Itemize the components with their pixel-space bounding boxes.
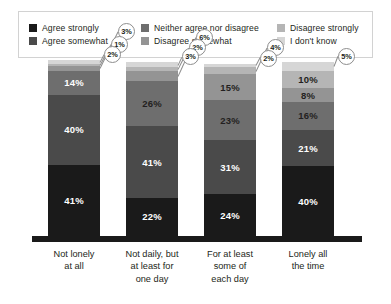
segment-value-label: 40%	[64, 124, 84, 135]
segment-value-label: 14%	[64, 77, 84, 88]
stacked-bar-not-daily-but-at-least-one-day[interactable]: 22%41%26%	[126, 62, 178, 236]
x-axis-label-not-lonely-at-all: Not lonelyat all	[35, 248, 113, 273]
plot-area: 41%40%14% 22%41%26% 24%31%23%15% 40%21%1…	[32, 62, 362, 242]
stacked-bar-for-at-least-some-of-each-day[interactable]: 24%31%23%15%	[204, 64, 256, 236]
legend-swatch-disagree-strongly	[277, 24, 285, 32]
x-axis-label-not-daily-but-at-least-one-day: Not daily, butat least forone day	[113, 248, 191, 285]
bar-segment-disagree-strongly[interactable]	[48, 64, 100, 66]
x-axis-label-line: the time	[269, 260, 347, 272]
bar-segment-neither-agree-nor-disagree[interactable]: 14%	[48, 71, 100, 95]
callout-i-don-t-know: 2%	[104, 46, 121, 63]
x-axis-label-for-at-least-some-of-each-day: For at leastsome ofeach day	[191, 248, 269, 285]
segment-value-label: 31%	[220, 162, 240, 173]
bar-segment-neither-agree-nor-disagree[interactable]: 16%	[282, 102, 334, 130]
bar-segment-i-don-t-know[interactable]	[126, 62, 178, 67]
bar-segment-disagree-somewhat[interactable]: 15%	[204, 74, 256, 100]
segment-value-label: 10%	[298, 74, 318, 85]
segment-value-label: 40%	[298, 196, 318, 207]
x-axis-label-line: one day	[113, 273, 191, 285]
legend-label-dont-know: I don't know	[290, 37, 337, 46]
segment-value-label: 22%	[142, 211, 162, 222]
legend-swatch-agree-somewhat	[29, 37, 37, 45]
segment-value-label: 24%	[220, 210, 240, 221]
segment-value-label: 41%	[142, 157, 162, 168]
callout-i-don-t-know: 2%	[260, 50, 277, 67]
bar-segment-agree-strongly[interactable]: 22%	[126, 198, 178, 236]
segment-value-label: 15%	[220, 82, 240, 93]
x-axis-label-line: some of	[191, 260, 269, 272]
x-axis-label-line: at least for	[113, 260, 191, 272]
legend-swatch-agree-strongly	[29, 24, 37, 32]
callout-i-don-t-know: 5%	[338, 48, 355, 65]
segment-value-label: 8%	[301, 90, 315, 101]
x-axis-label-line: Lonely all	[269, 248, 347, 260]
callout-i-don-t-know: 3%	[182, 48, 199, 65]
legend-label-agree-somewhat: Agree somewhat	[42, 37, 108, 46]
x-axis-label-lonely-all-the-time: Lonely allthe time	[269, 248, 347, 273]
bar-segment-agree-strongly[interactable]: 41%	[48, 165, 100, 236]
x-axis-label-line: Not lonely	[35, 248, 113, 260]
legend-item-dont-know[interactable]: I don't know	[277, 37, 371, 46]
bar-segment-i-don-t-know[interactable]	[204, 64, 256, 67]
bar-segment-disagree-somewhat[interactable]: 8%	[282, 88, 334, 102]
stacked-bar-lonely-all-the-time[interactable]: 40%21%16%8%10%	[282, 62, 334, 236]
segment-value-label: 23%	[220, 115, 240, 126]
x-axis-label-line: each day	[191, 273, 269, 285]
legend-label-agree-strongly: Agree strongly	[42, 24, 99, 33]
stacked-bar-not-lonely-at-all[interactable]: 41%40%14%	[48, 60, 100, 236]
bar-segment-i-don-t-know[interactable]	[282, 62, 334, 71]
segment-value-label: 21%	[298, 143, 318, 154]
bar-segment-i-don-t-know[interactable]	[48, 60, 100, 63]
bar-segment-agree-somewhat[interactable]: 41%	[126, 126, 178, 197]
legend-item-disagree-strongly[interactable]: Disagree strongly	[277, 24, 371, 33]
segment-value-label: 26%	[142, 98, 162, 109]
bar-segment-agree-strongly[interactable]: 40%	[282, 166, 334, 236]
bar-segment-disagree-strongly[interactable]: 10%	[282, 71, 334, 88]
bar-segment-disagree-somewhat[interactable]	[48, 66, 100, 71]
bar-segment-agree-somewhat[interactable]: 31%	[204, 140, 256, 194]
legend-column-3: Disagree strongly I don't know	[277, 24, 371, 45]
axis-baseline	[32, 236, 362, 242]
legend-label-disagree-strongly: Disagree strongly	[290, 24, 359, 33]
bar-segment-agree-somewhat[interactable]: 40%	[48, 95, 100, 165]
chart-figure: Agree strongly Agree somewhat Neither ag…	[0, 0, 391, 304]
bar-segment-neither-agree-nor-disagree[interactable]: 26%	[126, 81, 178, 126]
x-axis-label-line: at all	[35, 260, 113, 272]
segment-value-label: 16%	[298, 110, 318, 121]
bar-segment-agree-somewhat[interactable]: 21%	[282, 130, 334, 167]
x-axis-label-line: Not daily, but	[113, 248, 191, 260]
bar-segment-disagree-somewhat[interactable]	[126, 71, 178, 81]
bar-segment-neither-agree-nor-disagree[interactable]: 23%	[204, 100, 256, 140]
bar-segment-disagree-strongly[interactable]	[126, 67, 178, 70]
x-axis-label-line: For at least	[191, 248, 269, 260]
legend-swatch-disagree-somewhat	[141, 37, 149, 45]
legend-swatch-neither	[141, 24, 149, 32]
bar-segment-agree-strongly[interactable]: 24%	[204, 194, 256, 236]
segment-value-label: 41%	[64, 195, 84, 206]
bar-segment-disagree-strongly[interactable]	[204, 67, 256, 74]
